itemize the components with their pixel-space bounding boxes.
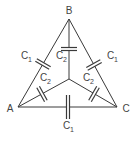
svg-text:2: 2 [63,56,67,63]
capacitor-c2-c [89,86,100,101]
capacitor-c1-ac [67,95,70,119]
svg-text:1: 1 [70,126,74,133]
label-c2-a: C 2 [40,72,51,85]
label-c2-c: C 2 [83,72,94,85]
label-c1-ac: C 1 [63,120,74,133]
node-label-c: C [122,103,129,114]
capacitor-c1-bc [86,60,101,70]
label-c1-bc: C 1 [107,50,118,63]
svg-text:2: 2 [90,78,94,85]
capacitor-network-diagram: B A C C 1 C 1 C 1 C 2 C 2 C 2 [0,0,135,141]
capacitor-c1-ab [35,59,50,70]
node-label-a: A [7,103,14,114]
label-c2-b: C 2 [56,50,67,63]
svg-text:1: 1 [114,56,118,63]
label-c1-ab: C 1 [21,50,32,63]
svg-text:1: 1 [28,56,32,63]
capacitor-c2-a [37,86,47,101]
node-label-b: B [66,5,73,16]
svg-text:2: 2 [47,78,51,85]
capacitor-c2-b [61,48,77,51]
